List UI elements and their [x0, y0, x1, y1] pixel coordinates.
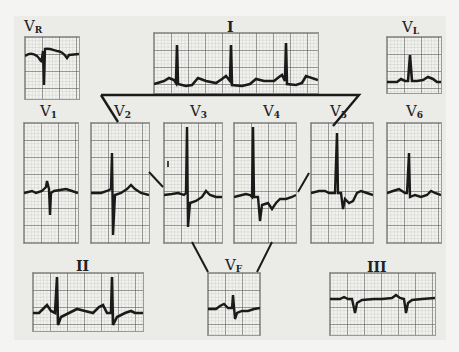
label-v4: V4	[263, 104, 280, 120]
ecg-strip-v2	[90, 122, 150, 244]
ecg-strip-ii	[32, 272, 144, 332]
label-v1: V1	[40, 104, 57, 120]
ecg-strip-v3	[163, 122, 223, 244]
ecg-strip-vf	[207, 272, 261, 336]
ecg-strip-v5	[310, 122, 374, 244]
ecg-trace-iii	[330, 273, 435, 335]
label-v5: V5	[330, 104, 347, 120]
label-ii: II	[76, 259, 89, 273]
ecg-trace-vl	[387, 37, 441, 93]
ecg-strip-vr	[24, 36, 80, 100]
label-v6: V6	[406, 104, 423, 120]
ecg-trace-vr	[25, 37, 79, 99]
label-v2: V2	[114, 104, 131, 120]
ecg-trace-v5	[311, 123, 373, 243]
ecg-trace-v2	[91, 123, 149, 243]
ecg-strip-v1	[23, 122, 79, 244]
ecg-trace-v6	[387, 123, 441, 243]
ecg-strip-iii	[329, 272, 436, 336]
ecg-trace-i	[154, 33, 318, 93]
ecg-strip-v4	[233, 122, 297, 244]
label-vl: VL	[402, 20, 419, 36]
ecg-strip-v6	[386, 122, 442, 244]
ecg-strip-vl	[386, 36, 442, 94]
ecg-trace-v3	[164, 123, 222, 243]
ecg-trace-v4	[234, 123, 296, 243]
label-v3: V3	[190, 104, 207, 120]
ecg-trace-v1	[24, 123, 78, 243]
label-vr: VR	[24, 19, 42, 35]
ecg-strip-i	[153, 32, 319, 94]
ecg-trace-ii	[33, 273, 143, 331]
ecg-trace-vf	[208, 273, 260, 335]
